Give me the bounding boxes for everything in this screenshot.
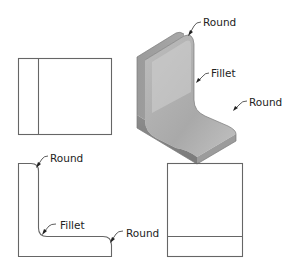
iso-round-right-text: Round bbox=[249, 96, 282, 108]
iso-round-top-arrow-icon bbox=[188, 30, 193, 36]
drawing-canvas: Round Fillet Round Round Fillet Round bbox=[0, 0, 293, 270]
side-round-right-text: Round bbox=[126, 227, 159, 239]
side-fillet-text: Fillet bbox=[60, 219, 85, 231]
iso-label-round-top: Round bbox=[188, 16, 236, 36]
iso-fillet-leader bbox=[199, 73, 209, 80]
side-label-round-right: Round bbox=[110, 227, 159, 243]
isometric-view bbox=[137, 32, 236, 164]
iso-round-top-text: Round bbox=[203, 16, 236, 28]
front-view bbox=[19, 59, 112, 135]
side-view-profile bbox=[19, 164, 112, 257]
iso-label-fillet: Fillet bbox=[196, 67, 236, 83]
side-round-top-text: Round bbox=[50, 152, 83, 164]
side-label-round-top: Round bbox=[36, 152, 83, 168]
front-view-outline bbox=[19, 59, 112, 135]
side-label-fillet: Fillet bbox=[42, 219, 85, 235]
side-view bbox=[19, 164, 112, 257]
iso-label-round-right: Round bbox=[233, 96, 282, 111]
iso-round-right-leader bbox=[236, 101, 247, 108]
iso-fillet-text: Fillet bbox=[211, 67, 236, 79]
top-view-outline bbox=[168, 164, 243, 257]
top-view bbox=[168, 164, 243, 257]
